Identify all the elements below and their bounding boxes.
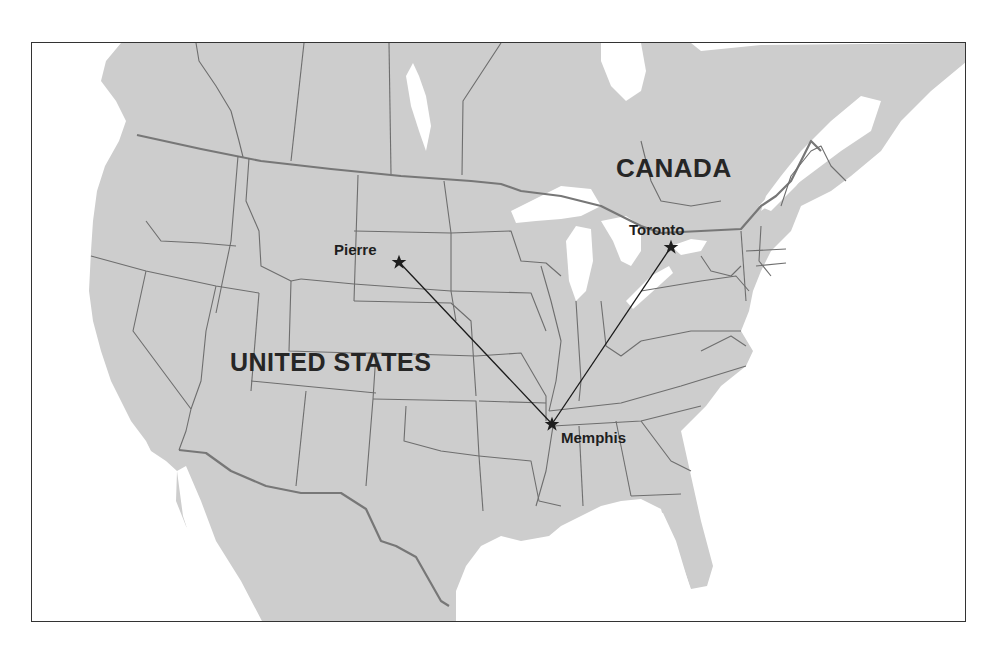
- star-icon-memphis: [544, 416, 560, 432]
- country-label-canada: CANADA: [616, 153, 732, 184]
- city-label-pierre: Pierre: [334, 241, 377, 258]
- map-frame: CANADA UNITED STATES Pierre Toronto Memp…: [31, 42, 966, 622]
- city-label-toronto: Toronto: [629, 221, 685, 238]
- landmass: [89, 43, 966, 622]
- city-label-memphis: Memphis: [561, 429, 626, 446]
- country-label-united-states: UNITED STATES: [230, 348, 431, 377]
- map-canvas: [32, 43, 966, 622]
- star-icon-toronto: [663, 239, 679, 255]
- star-icon-pierre: [391, 254, 407, 270]
